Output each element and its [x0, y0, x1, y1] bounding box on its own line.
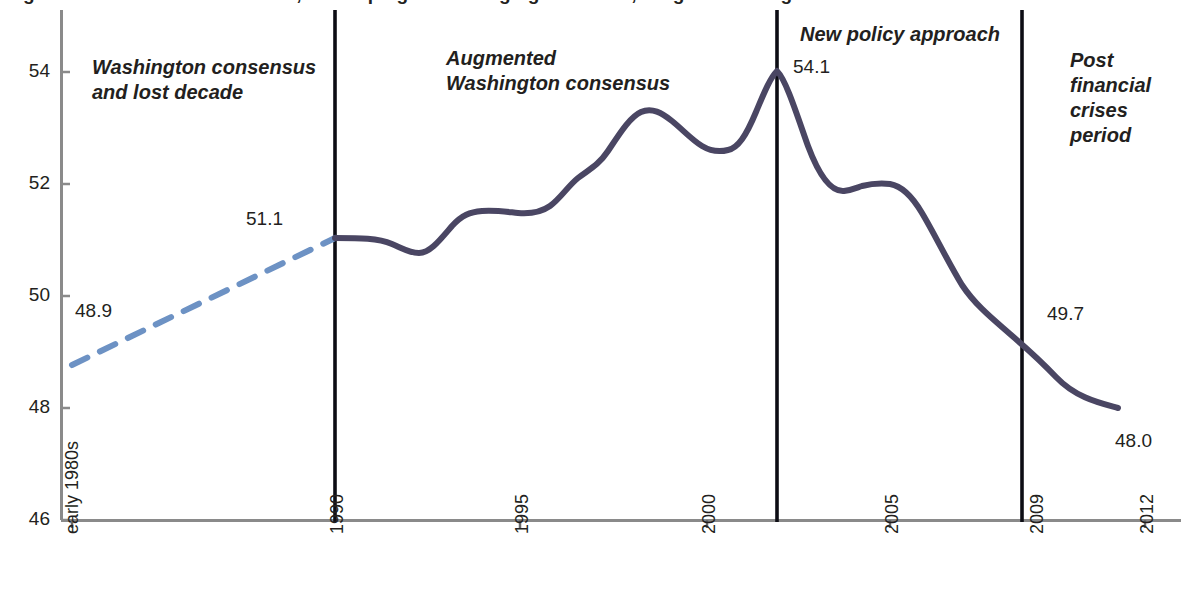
x-tick-label-2005: 2005 [882, 494, 903, 534]
y-tick-label-46: 46 [6, 508, 50, 530]
data-label-48-0: 48.0 [1115, 430, 1152, 452]
data-label-49-7: 49.7 [1047, 303, 1084, 325]
series-labour-income-share [335, 71, 1118, 408]
annotation-washington-consensus: Washington consensus and lost decade [92, 55, 316, 105]
annotation-post-financial-crises-period: Post financial crises period [1070, 48, 1151, 148]
x-tick-label-2000: 2000 [699, 494, 720, 534]
annotation-augmented-washington-consensus: Augmented Washington consensus [446, 46, 670, 96]
y-tick-label-54: 54 [6, 60, 50, 82]
x-tick-label-2012: 2012 [1137, 494, 1158, 534]
x-tick-label-1995: 1995 [512, 494, 533, 534]
chart-figure: Figure 1.1 Labour income share, developi… [0, 0, 1181, 604]
x-tick-label-1990: 1990 [327, 494, 348, 534]
x-tick-text-early: early 1980s [62, 441, 82, 534]
data-label-51-1: 51.1 [246, 208, 283, 230]
y-tick-label-48: 48 [6, 396, 50, 418]
data-label-54-1: 54.1 [793, 56, 830, 78]
data-label-48-9: 48.9 [75, 300, 112, 322]
y-tick-label-52: 52 [6, 172, 50, 194]
x-tick-label-2009: 2009 [1027, 494, 1048, 534]
x-tick-label-early-1980s: early 1980s [62, 441, 82, 534]
y-tick-label-50: 50 [6, 284, 50, 306]
annotation-new-policy-approach: New policy approach [800, 22, 1000, 47]
